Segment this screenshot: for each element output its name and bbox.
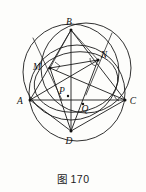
point-label-P: P (58, 86, 65, 96)
point-label-D: D (65, 136, 73, 146)
point-label-Q: Q (82, 104, 89, 114)
vertex-dot-A (29, 99, 32, 102)
vertex-dot-B (70, 29, 73, 32)
point-label-A: A (16, 96, 23, 106)
ray-group (33, 33, 112, 100)
vertex-dot-group (29, 29, 127, 133)
side-BC (71, 30, 125, 100)
segment-AD (30, 100, 71, 131)
segment-CD (71, 100, 125, 131)
ray-through-N (86, 33, 112, 95)
point-label-B: B (66, 17, 72, 27)
segment-BM (50, 30, 71, 68)
point-label-N: N (100, 50, 108, 60)
circle-group (23, 23, 131, 141)
segment-ND (71, 60, 98, 131)
geometry-diagram: A B C D M N P Q (0, 0, 146, 192)
vertex-dot-M (48, 66, 51, 69)
upper-right-circle (41, 23, 131, 113)
vertex-dot-P (67, 95, 69, 97)
vertex-dot-D (70, 130, 73, 133)
vertex-dot-N (96, 58, 99, 61)
figure-container: A B C D M N P Q 图 170 (0, 0, 146, 192)
vertex-dot-C (124, 99, 127, 102)
point-label-M: M (32, 62, 42, 72)
point-label-C: C (130, 96, 137, 106)
figure-caption: 图 170 (0, 171, 146, 186)
